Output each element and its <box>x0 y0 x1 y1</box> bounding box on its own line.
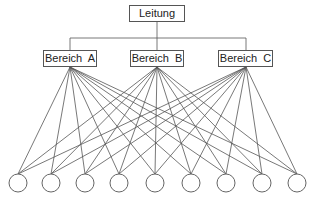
unit-node-8 <box>253 174 271 192</box>
department-node-b: Bereich B <box>130 50 184 67</box>
unit-node-6 <box>182 174 200 192</box>
unit-node-3 <box>76 174 94 192</box>
unit-node-9 <box>288 174 306 192</box>
unit-node-4 <box>110 174 128 192</box>
unit-node-5 <box>146 174 164 192</box>
connection-lines <box>0 0 315 199</box>
unit-node-2 <box>42 174 60 192</box>
department-node-c: Bereich C <box>218 50 273 67</box>
unit-node-1 <box>9 174 27 192</box>
unit-node-7 <box>217 174 235 192</box>
department-node-a: Bereich A <box>43 50 97 67</box>
root-node-leitung: Leitung <box>129 5 185 22</box>
